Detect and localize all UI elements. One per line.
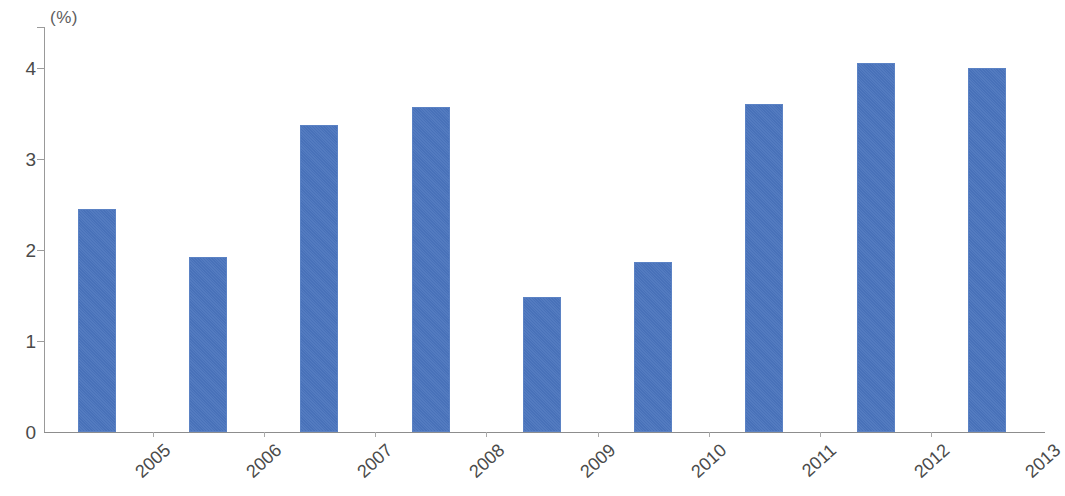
x-axis-tick-label: 2009 (576, 440, 620, 482)
y-axis-unit-label: (%) (50, 8, 78, 28)
bar (78, 209, 116, 432)
bar (968, 68, 1006, 432)
x-axis-separator-tick (486, 432, 487, 437)
x-axis-separator-tick (931, 432, 932, 437)
x-axis-tick-label: 2011 (798, 440, 841, 482)
y-axis-tick (37, 159, 45, 160)
y-axis-tick-label: 1 (6, 332, 36, 351)
bar (634, 262, 672, 432)
y-axis-tick-label: 2 (6, 241, 36, 260)
bar (523, 297, 561, 432)
bar (857, 63, 895, 432)
y-axis-tick (37, 341, 45, 342)
bar (189, 257, 227, 432)
bar (412, 107, 450, 432)
bar (745, 104, 783, 432)
x-axis-separator-tick (820, 432, 821, 437)
x-axis-separator-tick (264, 432, 265, 437)
y-axis-tick-label: 4 (6, 59, 36, 78)
x-axis-baseline (44, 432, 1045, 433)
x-axis-separator-tick (598, 432, 599, 437)
y-axis-tick-label: 3 (6, 150, 36, 169)
x-axis-separator-tick (709, 432, 710, 437)
y-axis-line (44, 27, 45, 433)
x-axis-tick-label: 2007 (354, 440, 398, 482)
x-axis-tick-label: 2013 (1021, 440, 1065, 482)
x-axis-tick-label: 2010 (687, 440, 731, 482)
bar (300, 125, 338, 432)
x-axis-tick-label: 2006 (243, 440, 287, 482)
x-axis-separator-tick (375, 432, 376, 437)
plot-area: 01234 (44, 27, 1045, 433)
x-axis-separator-tick (153, 432, 154, 437)
x-axis-tick-label: 2005 (131, 440, 175, 482)
x-axis-tick-label: 2008 (465, 440, 509, 482)
y-axis-tick (37, 250, 45, 251)
y-axis-tick (37, 68, 45, 69)
y-axis-tick-label: 0 (6, 423, 36, 442)
x-axis-tick-label: 2012 (910, 440, 954, 482)
y-axis-top-cap (37, 27, 45, 28)
